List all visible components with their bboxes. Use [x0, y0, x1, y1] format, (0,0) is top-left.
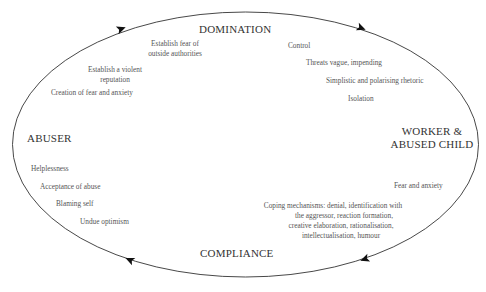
item-line: reputation — [80, 75, 150, 85]
node-compliance: COMPLIANCE — [200, 247, 274, 260]
item-line: outside authorities — [135, 49, 215, 59]
item-fear-outside-authorities: Establish fear of outside authorities — [135, 39, 215, 59]
item-rhetoric: Simplistic and polarising rhetoric — [326, 76, 423, 86]
item-control: Control — [288, 41, 310, 51]
node-worker-abused-child: WORKER & ABUSED CHILD — [384, 125, 480, 151]
item-line: Establish fear of — [135, 39, 215, 49]
node-domination: DOMINATION — [199, 23, 271, 36]
item-line: intellectualisation, humour — [252, 231, 414, 241]
item-coping-mechanisms: Coping mechanisms: denial, identificatio… — [252, 201, 414, 241]
item-blaming-self: Blaming self — [56, 199, 94, 209]
item-helplessness: Helplessness — [31, 164, 69, 174]
item-threats: Threats vague, impending — [306, 58, 382, 68]
item-creation-of-fear: Creation of fear and anxiety — [51, 88, 133, 98]
item-line: Establish a violent — [80, 65, 150, 75]
item-acceptance-of-abuse: Acceptance of abuse — [40, 182, 100, 192]
node-abuser: ABUSER — [27, 132, 72, 145]
item-line: creative elaboration, rationalisation, — [252, 221, 414, 231]
node-worker-line-2: ABUSED CHILD — [384, 138, 480, 151]
item-isolation: Isolation — [348, 94, 374, 104]
item-fear-and-anxiety: Fear and anxiety — [394, 181, 443, 191]
arrow-bottom-right-icon — [359, 254, 370, 265]
item-line: the aggressor, reaction formation, — [252, 211, 414, 221]
item-violent-reputation: Establish a violent reputation — [80, 65, 150, 85]
item-undue-optimism: Undue optimism — [80, 217, 129, 227]
item-line: Coping mechanisms: denial, identificatio… — [252, 201, 414, 211]
node-worker-line-1: WORKER & — [384, 125, 480, 138]
arrow-bottom-left-icon — [124, 254, 136, 265]
